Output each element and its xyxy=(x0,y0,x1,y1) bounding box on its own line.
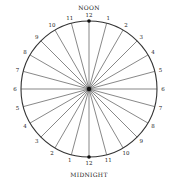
hour-label: 8 xyxy=(23,49,27,55)
hour-spoke xyxy=(71,23,89,89)
hour-label: 1 xyxy=(68,157,72,163)
hour-label: 7 xyxy=(16,67,20,73)
hour-label: 4 xyxy=(151,49,155,55)
hour-label: 10 xyxy=(123,150,130,156)
hour-label: 2 xyxy=(124,22,128,28)
hour-label: 5 xyxy=(159,67,163,73)
hour-spoke xyxy=(89,89,137,137)
hour-label: 6 xyxy=(161,86,165,92)
hour-label: 3 xyxy=(140,34,144,40)
hour-spoke xyxy=(89,23,107,89)
hour-label: 2 xyxy=(50,150,54,156)
hour-label: 5 xyxy=(16,105,20,111)
hour-spoke xyxy=(30,89,89,123)
hour-spoke xyxy=(71,89,89,155)
noon-label: NOON xyxy=(78,4,100,11)
hour-label: 9 xyxy=(35,34,39,40)
hour-spoke xyxy=(89,41,137,89)
hour-spoke xyxy=(41,41,89,89)
hour-spoke xyxy=(55,89,89,148)
hour-label: 12 xyxy=(86,12,93,18)
hour-label: 12 xyxy=(86,160,93,166)
hour-spoke xyxy=(89,30,123,89)
hour-label: 4 xyxy=(23,123,27,129)
hour-label: 3 xyxy=(35,138,39,144)
hour-spoke xyxy=(89,89,148,123)
hour-label: 6 xyxy=(13,86,17,92)
hour-spoke xyxy=(89,71,155,89)
hour-spoke xyxy=(55,30,89,89)
hour-spoke xyxy=(89,55,148,89)
hour-spoke xyxy=(89,89,123,148)
midnight-marker-dot xyxy=(87,155,91,159)
twenty-four-hour-clock-diagram: 121234567891011121234567891011 NOON MIDN… xyxy=(0,0,173,183)
hour-label: 1 xyxy=(106,15,110,21)
hour-spoke xyxy=(30,55,89,89)
hour-label: 8 xyxy=(151,123,155,129)
noon-marker-dot xyxy=(87,19,91,23)
hour-label: 7 xyxy=(159,105,163,111)
hour-label: 10 xyxy=(49,22,56,28)
hour-spoke xyxy=(89,89,155,107)
center-hub xyxy=(87,87,91,91)
hour-spoke xyxy=(89,89,107,155)
midnight-label: MIDNIGHT xyxy=(70,171,107,178)
hour-label: 11 xyxy=(105,157,112,163)
hour-label: 9 xyxy=(140,138,144,144)
hour-label: 11 xyxy=(66,15,73,21)
hour-spoke xyxy=(23,89,89,107)
hour-spoke xyxy=(41,89,89,137)
hour-spoke xyxy=(23,71,89,89)
